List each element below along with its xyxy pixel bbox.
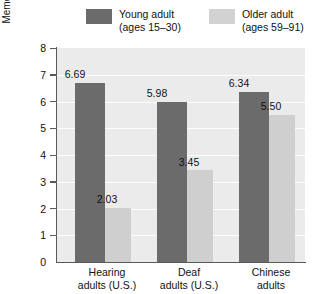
x-axis-label-deaf-adults-line1: Deaf bbox=[178, 266, 200, 278]
bar-value-hearing-older: 2.03 bbox=[92, 194, 122, 205]
bar-chart-figure: Young adult (ages 15–30) Older adult (ag… bbox=[0, 0, 326, 294]
x-axis-label-chinese-adults-line1: Chinese bbox=[252, 266, 291, 278]
y-axis-title: Memory performance scale bbox=[0, 0, 14, 72]
y-tick-label-6: 6 bbox=[28, 97, 46, 107]
y-tick-label-1: 1 bbox=[28, 230, 46, 240]
y-tick-label-3: 3 bbox=[28, 177, 46, 187]
legend-label-older-adult-line2: (ages 59–91) bbox=[242, 21, 304, 33]
y-tick-mark-2 bbox=[50, 208, 57, 209]
bar-value-hearing-young: 6.69 bbox=[60, 69, 90, 80]
y-tick-label-8: 8 bbox=[28, 43, 46, 53]
bar-chinese-older bbox=[269, 115, 295, 262]
x-axis-label-hearing-adults-line2: adults (U.S.) bbox=[78, 279, 136, 291]
x-axis-label-deaf-adults-line2: adults (U.S.) bbox=[160, 279, 218, 291]
bar-value-deaf-young: 5.98 bbox=[142, 88, 172, 99]
bar-hearing-young bbox=[75, 83, 105, 262]
bar-chinese-young bbox=[239, 92, 269, 262]
gridline-7 bbox=[57, 75, 305, 76]
x-axis-line bbox=[56, 262, 306, 263]
chart-legend: Young adult (ages 15–30) Older adult (ag… bbox=[86, 8, 304, 33]
x-axis-label-hearing-adults-line1: Hearing bbox=[89, 266, 126, 278]
x-axis-label-chinese-adults-line2: adults bbox=[257, 279, 285, 291]
y-tick-mark-8 bbox=[50, 48, 57, 49]
y-tick-mark-7 bbox=[50, 74, 57, 75]
legend-swatch-young-adult bbox=[86, 9, 112, 24]
y-tick-label-4: 4 bbox=[28, 150, 46, 160]
bar-deaf-young bbox=[157, 102, 187, 262]
x-axis-label-chinese-adults: Chinese adults bbox=[227, 266, 315, 291]
y-tick-mark-1 bbox=[50, 235, 57, 236]
bar-value-chinese-young: 6.34 bbox=[224, 78, 254, 89]
bar-value-deaf-older: 3.45 bbox=[174, 157, 204, 168]
legend-swatch-older-adult bbox=[209, 9, 235, 24]
legend-label-young-adult: Young adult (ages 15–30) bbox=[119, 8, 181, 33]
bar-value-chinese-older: 5.50 bbox=[256, 101, 286, 112]
x-axis-label-deaf-adults: Deaf adults (U.S.) bbox=[145, 266, 233, 291]
legend-label-young-adult-line1: Young adult bbox=[119, 8, 174, 20]
legend-entry-older-adult: Older adult (ages 59–91) bbox=[209, 8, 304, 33]
bar-hearing-older bbox=[105, 208, 131, 262]
y-tick-label-2: 2 bbox=[28, 204, 46, 214]
legend-label-older-adult-line1: Older adult bbox=[242, 8, 293, 20]
y-tick-mark-6 bbox=[50, 101, 57, 102]
legend-label-young-adult-line2: (ages 15–30) bbox=[119, 21, 181, 33]
y-tick-mark-3 bbox=[50, 181, 57, 182]
y-tick-mark-5 bbox=[50, 128, 57, 129]
y-tick-label-7: 7 bbox=[28, 70, 46, 80]
bar-deaf-older bbox=[187, 170, 213, 262]
legend-label-older-adult: Older adult (ages 59–91) bbox=[242, 8, 304, 33]
y-tick-mark-4 bbox=[50, 155, 57, 156]
y-tick-label-5: 5 bbox=[28, 123, 46, 133]
y-tick-label-0: 0 bbox=[28, 257, 46, 267]
plot-area bbox=[57, 48, 305, 262]
x-axis-label-hearing-adults: Hearing adults (U.S.) bbox=[63, 266, 151, 291]
legend-entry-young-adult: Young adult (ages 15–30) bbox=[86, 8, 181, 33]
